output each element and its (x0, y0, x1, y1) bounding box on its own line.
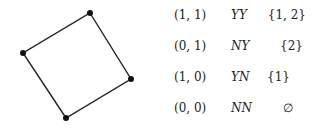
table-row: (0, 1) NY {2} (0, 38, 303, 54)
code: YY (231, 7, 247, 23)
table-row: (1, 1) YY {1, 2} (0, 7, 306, 23)
set: {1} (267, 69, 290, 85)
coord: (0, 1) (174, 38, 206, 54)
table-row: (1, 0) YN {1} (0, 69, 290, 85)
code: NY (231, 38, 249, 54)
empty-set-icon: ∅ (283, 100, 293, 116)
coord: (0, 0) (174, 100, 206, 116)
set: {2} (280, 38, 303, 54)
code: NN (231, 100, 252, 116)
coord: (1, 0) (174, 69, 206, 85)
table-row: (0, 0) NN ∅ (0, 100, 293, 116)
code: YN (231, 69, 249, 85)
coord: (1, 1) (174, 7, 206, 23)
set: {1, 2} (268, 7, 306, 23)
